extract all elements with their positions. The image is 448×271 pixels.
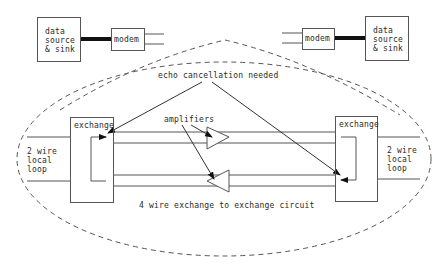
four-wire-circuit-label: 4 wire exchange to exchange circuit: [139, 201, 315, 210]
left-data-source-label: data source & sink: [45, 27, 75, 54]
left-local-loop-label: 2 wire local loop: [27, 147, 57, 174]
echo-cancellation-label: echo cancellation needed: [158, 71, 278, 80]
left-modem-label: modem: [114, 35, 139, 44]
echo-cancellation-diagram: data source & sink modem modem data sour…: [0, 0, 448, 271]
amplifier-forward-icon: [207, 127, 229, 149]
amplifiers-label: amplifiers: [164, 115, 214, 124]
right-exchange-label: exchange: [339, 120, 379, 129]
echo-arrow-left: [108, 82, 202, 133]
left-exchange-label: exchange: [74, 121, 114, 130]
right-local-loop-label: 2 wire local loop: [387, 146, 417, 173]
echo-arrow-right: [212, 82, 340, 175]
right-data-source-label: data source & sink: [373, 26, 403, 53]
right-modem-label: modem: [305, 34, 330, 43]
